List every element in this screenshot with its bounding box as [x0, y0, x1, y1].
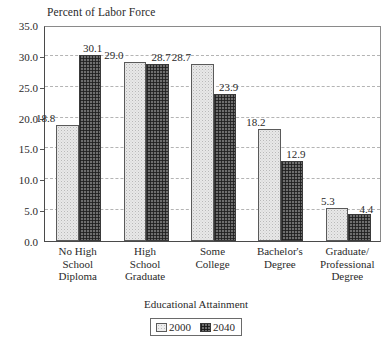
y-axis-tick-label: 5.0 — [24, 205, 38, 217]
y-axis-tick-label: 15.0 — [19, 143, 38, 155]
bar-2000-2 — [124, 62, 147, 241]
bar-value-label: 5.3 — [311, 195, 335, 207]
bar-2040-2 — [146, 64, 169, 241]
chart-legend: 20002040 — [150, 318, 242, 336]
bar-value-label: 12.9 — [283, 148, 309, 160]
y-axis: 0.05.010.015.020.025.030.035.0 — [0, 26, 44, 242]
y-axis-tick-label: 0.0 — [24, 236, 38, 248]
bar-2040-3 — [214, 94, 237, 241]
y-axis-tick-label: 30.0 — [19, 51, 38, 63]
x-axis-category-label: HighSchoolGraduate — [111, 245, 178, 283]
category-label-line: Professional — [314, 258, 381, 271]
category-label-line: School — [111, 258, 178, 271]
legend-label: 2040 — [213, 321, 235, 333]
bar-series-container: 18.830.129.028.728.723.918.212.95.34.4 — [45, 27, 380, 241]
x-axis-category-label: No HighSchoolDiploma — [44, 245, 111, 283]
bar-value-label: 23.9 — [216, 81, 242, 93]
bar-2040-5 — [348, 214, 371, 241]
category-label-line: Graduate/ — [314, 245, 381, 258]
bar-2000-5 — [326, 208, 349, 241]
bar-chart-figure: Percent of Labor Force 0.05.010.015.020.… — [0, 0, 392, 343]
light-stipple-swatch — [156, 323, 167, 332]
bar-value-label: 28.7 — [167, 51, 191, 63]
category-label-line: Degree — [246, 258, 313, 271]
legend-entry-2040: 2040 — [200, 321, 235, 333]
x-axis-category-labels: No HighSchoolDiplomaHighSchoolGraduateSo… — [44, 245, 381, 293]
category-label-line: Graduate — [111, 270, 178, 283]
category-label-line: Diploma — [44, 270, 111, 283]
x-axis-title: Educational Attainment — [0, 298, 392, 310]
chart-title: Percent of Labor Force — [47, 6, 156, 18]
x-axis-category-label: SomeCollege — [179, 245, 246, 270]
x-axis-category-label: Bachelor'sDegree — [246, 245, 313, 270]
category-label-line: School — [44, 258, 111, 271]
bar-value-label: 4.4 — [353, 203, 379, 215]
bar-value-label: 18.8 — [31, 112, 55, 124]
bar-value-label: 18.2 — [241, 116, 265, 128]
y-axis-tick-label: 35.0 — [19, 20, 38, 32]
legend-entry-2000: 2000 — [156, 321, 191, 333]
y-axis-tick-label: 10.0 — [19, 174, 38, 186]
category-label-line: Some — [179, 245, 246, 258]
bar-2000-3 — [191, 64, 214, 241]
dark-crosshatch-swatch — [200, 323, 211, 332]
bar-2040-4 — [281, 161, 304, 241]
legend-label: 2000 — [169, 321, 191, 333]
category-label-line: No High — [44, 245, 111, 258]
plot-area: 18.830.129.028.728.723.918.212.95.34.4 — [44, 26, 381, 242]
y-axis-tick-label: 25.0 — [19, 82, 38, 94]
bar-value-label: 29.0 — [100, 49, 124, 61]
x-axis-category-label: Graduate/ProfessionalDegree — [314, 245, 381, 283]
category-label-line: College — [179, 258, 246, 271]
category-label-line: Bachelor's — [246, 245, 313, 258]
bar-2000-4 — [258, 129, 281, 241]
bar-2000-1 — [56, 125, 79, 241]
bar-2040-1 — [79, 55, 102, 241]
category-label-line: High — [111, 245, 178, 258]
category-label-line: Degree — [314, 270, 381, 283]
